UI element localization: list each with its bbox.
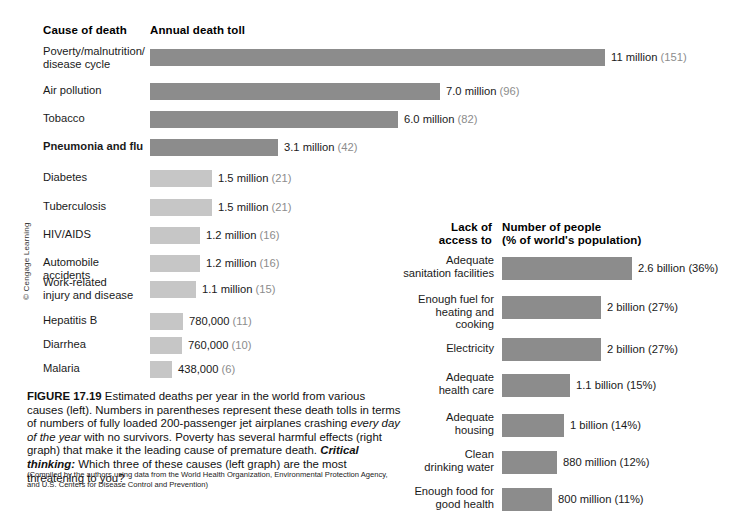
- row-value: 11 million (151): [611, 51, 687, 63]
- copyright-notice: © Cengage Learning: [22, 222, 31, 300]
- row-value: 1.5 million (21): [218, 201, 291, 213]
- bar: [502, 374, 570, 397]
- value-text: 1.5 million: [218, 201, 268, 213]
- row-label: Pneumonia and flu: [43, 140, 147, 153]
- bar: [502, 488, 552, 511]
- bar: [502, 257, 632, 280]
- header-annual-death-toll: Annual death toll: [150, 24, 245, 36]
- table-row: Adequate sanitation facilities 2.6 billi…: [0, 254, 748, 280]
- table-row: Enough fuel for heating and cooking 2 bi…: [0, 293, 748, 319]
- bar: [150, 111, 398, 128]
- value-text: 1.2 million: [206, 229, 256, 241]
- row-label: Enough fuel for heating and cooking: [398, 293, 494, 331]
- value-text: 11 million: [611, 51, 657, 63]
- bar: [502, 414, 564, 437]
- table-row: Poverty/malnutrition/ disease cycle 11 m…: [0, 44, 748, 70]
- row-value: 1.1 billion (15%): [576, 379, 656, 391]
- table-row: Electricity 2 billion (27%): [0, 335, 748, 361]
- header-number-of-people: Number of people (% of world's populatio…: [502, 221, 641, 246]
- figure-17-19: Cause of death Annual death toll Poverty…: [0, 0, 748, 513]
- table-row: Air pollution 7.0 million (96): [0, 80, 748, 106]
- table-row: Tuberculosis 1.5 million (21): [0, 196, 748, 222]
- figure-number: FIGURE 17.19: [27, 390, 102, 402]
- header-cause-of-death: Cause of death: [43, 24, 127, 36]
- row-label: Adequate sanitation facilities: [398, 254, 494, 279]
- bar: [502, 296, 601, 319]
- value-paren: (96): [499, 85, 519, 97]
- value-paren: (16): [259, 229, 279, 241]
- row-value: 880 million (12%): [563, 456, 649, 468]
- row-label: Adequate health care: [398, 371, 494, 396]
- value-text: 3.1 million: [284, 141, 334, 153]
- header-lack-of-access-to: Lack of access to: [418, 221, 492, 246]
- row-value: 7.0 million (96): [446, 85, 519, 97]
- table-row: Diabetes 1.5 million (21): [0, 167, 748, 193]
- value-text: 6.0 million: [404, 113, 454, 125]
- bar: [502, 451, 557, 474]
- table-row: Pneumonia and flu 3.1 million (42): [0, 136, 748, 162]
- bar: [150, 199, 212, 216]
- value-paren: (21): [271, 201, 291, 213]
- row-label: Tobacco: [43, 112, 147, 125]
- row-value: 2.6 billion (36%): [638, 262, 718, 274]
- value-paren: (82): [457, 113, 477, 125]
- row-label: Clean drinking water: [398, 448, 494, 473]
- row-value: 2 billion (27%): [607, 343, 678, 355]
- row-label: Diabetes: [43, 171, 147, 184]
- row-label: Tuberculosis: [43, 200, 147, 213]
- value-paren: (151): [661, 51, 687, 63]
- row-value: 1.5 million (21): [218, 172, 291, 184]
- row-label: Electricity: [398, 342, 494, 355]
- row-value: 1.2 million (16): [206, 229, 279, 241]
- row-value: 800 million (11%): [558, 493, 644, 505]
- figure-source: (Compiled by the authors using data from…: [27, 470, 401, 489]
- bar: [502, 338, 601, 361]
- bar: [150, 83, 440, 100]
- row-label: Adequate housing: [398, 411, 494, 436]
- row-value: 6.0 million (82): [404, 113, 477, 125]
- row-value: 3.1 million (42): [284, 141, 357, 153]
- value-text: 7.0 million: [446, 85, 496, 97]
- value-paren: (42): [337, 141, 357, 153]
- value-text: 1.5 million: [218, 172, 268, 184]
- bar: [150, 170, 212, 187]
- row-label: HIV/AIDS: [43, 228, 147, 241]
- row-value: 1 billion (14%): [570, 419, 641, 431]
- bar: [150, 49, 605, 66]
- row-label: Poverty/malnutrition/ disease cycle: [43, 45, 147, 70]
- row-label: Air pollution: [43, 84, 147, 97]
- value-paren: (21): [271, 172, 291, 184]
- bar: [150, 139, 278, 156]
- bar: [150, 227, 200, 244]
- row-value: 2 billion (27%): [607, 301, 678, 313]
- table-row: Tobacco 6.0 million (82): [0, 108, 748, 134]
- row-label: Enough food for good health: [398, 485, 494, 510]
- left-chart-annual-death-toll: Cause of death Annual death toll Poverty…: [0, 0, 748, 385]
